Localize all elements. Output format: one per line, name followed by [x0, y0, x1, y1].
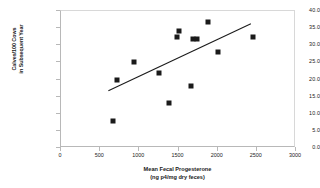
y-axis-title-line2: in Subsequent Year [18, 3, 25, 95]
x-tick-label: 500 [79, 152, 119, 158]
data-point-marker [189, 84, 194, 89]
data-point-marker [176, 28, 181, 33]
x-tick-label: 0 [40, 152, 80, 158]
data-point-marker [206, 19, 211, 24]
data-point-marker [250, 35, 255, 40]
x-tick-label: 1000 [118, 152, 158, 158]
x-tick-mark [295, 147, 296, 151]
data-point-marker [215, 50, 220, 55]
x-tick-mark [60, 147, 61, 151]
x-axis-title-units: (ng p4/mg dry feces) [60, 173, 295, 181]
plot-area [60, 10, 295, 147]
x-tick-mark [256, 147, 257, 151]
data-point-marker [174, 35, 179, 40]
y-axis-title: Calves/100 Cows in Subsequent Year [11, 3, 25, 95]
trendline [108, 24, 251, 91]
x-axis-title: Mean Fecal Progesterone (ng p4/mg dry fe… [60, 165, 295, 181]
data-point-marker [194, 37, 199, 42]
x-tick-mark [178, 147, 179, 151]
data-point-marker [115, 77, 120, 82]
y-axis-title-line1: Calves/100 Cows [11, 3, 18, 95]
data-point-marker [156, 70, 161, 75]
x-tick-label: 2500 [236, 152, 276, 158]
scatter-chart-figure: Calves/100 Cows in Subsequent Year 0.05.… [0, 0, 320, 188]
x-tick-label: 2000 [197, 152, 237, 158]
data-point-marker [131, 60, 136, 65]
x-tick-mark [99, 147, 100, 151]
data-point-marker [167, 100, 172, 105]
data-point-marker [111, 118, 116, 123]
x-tick-label: 1500 [158, 152, 198, 158]
x-tick-label: 3000 [275, 152, 315, 158]
x-tick-mark [217, 147, 218, 151]
x-tick-mark [138, 147, 139, 151]
x-axis-title-main: Mean Fecal Progesterone [60, 165, 295, 173]
